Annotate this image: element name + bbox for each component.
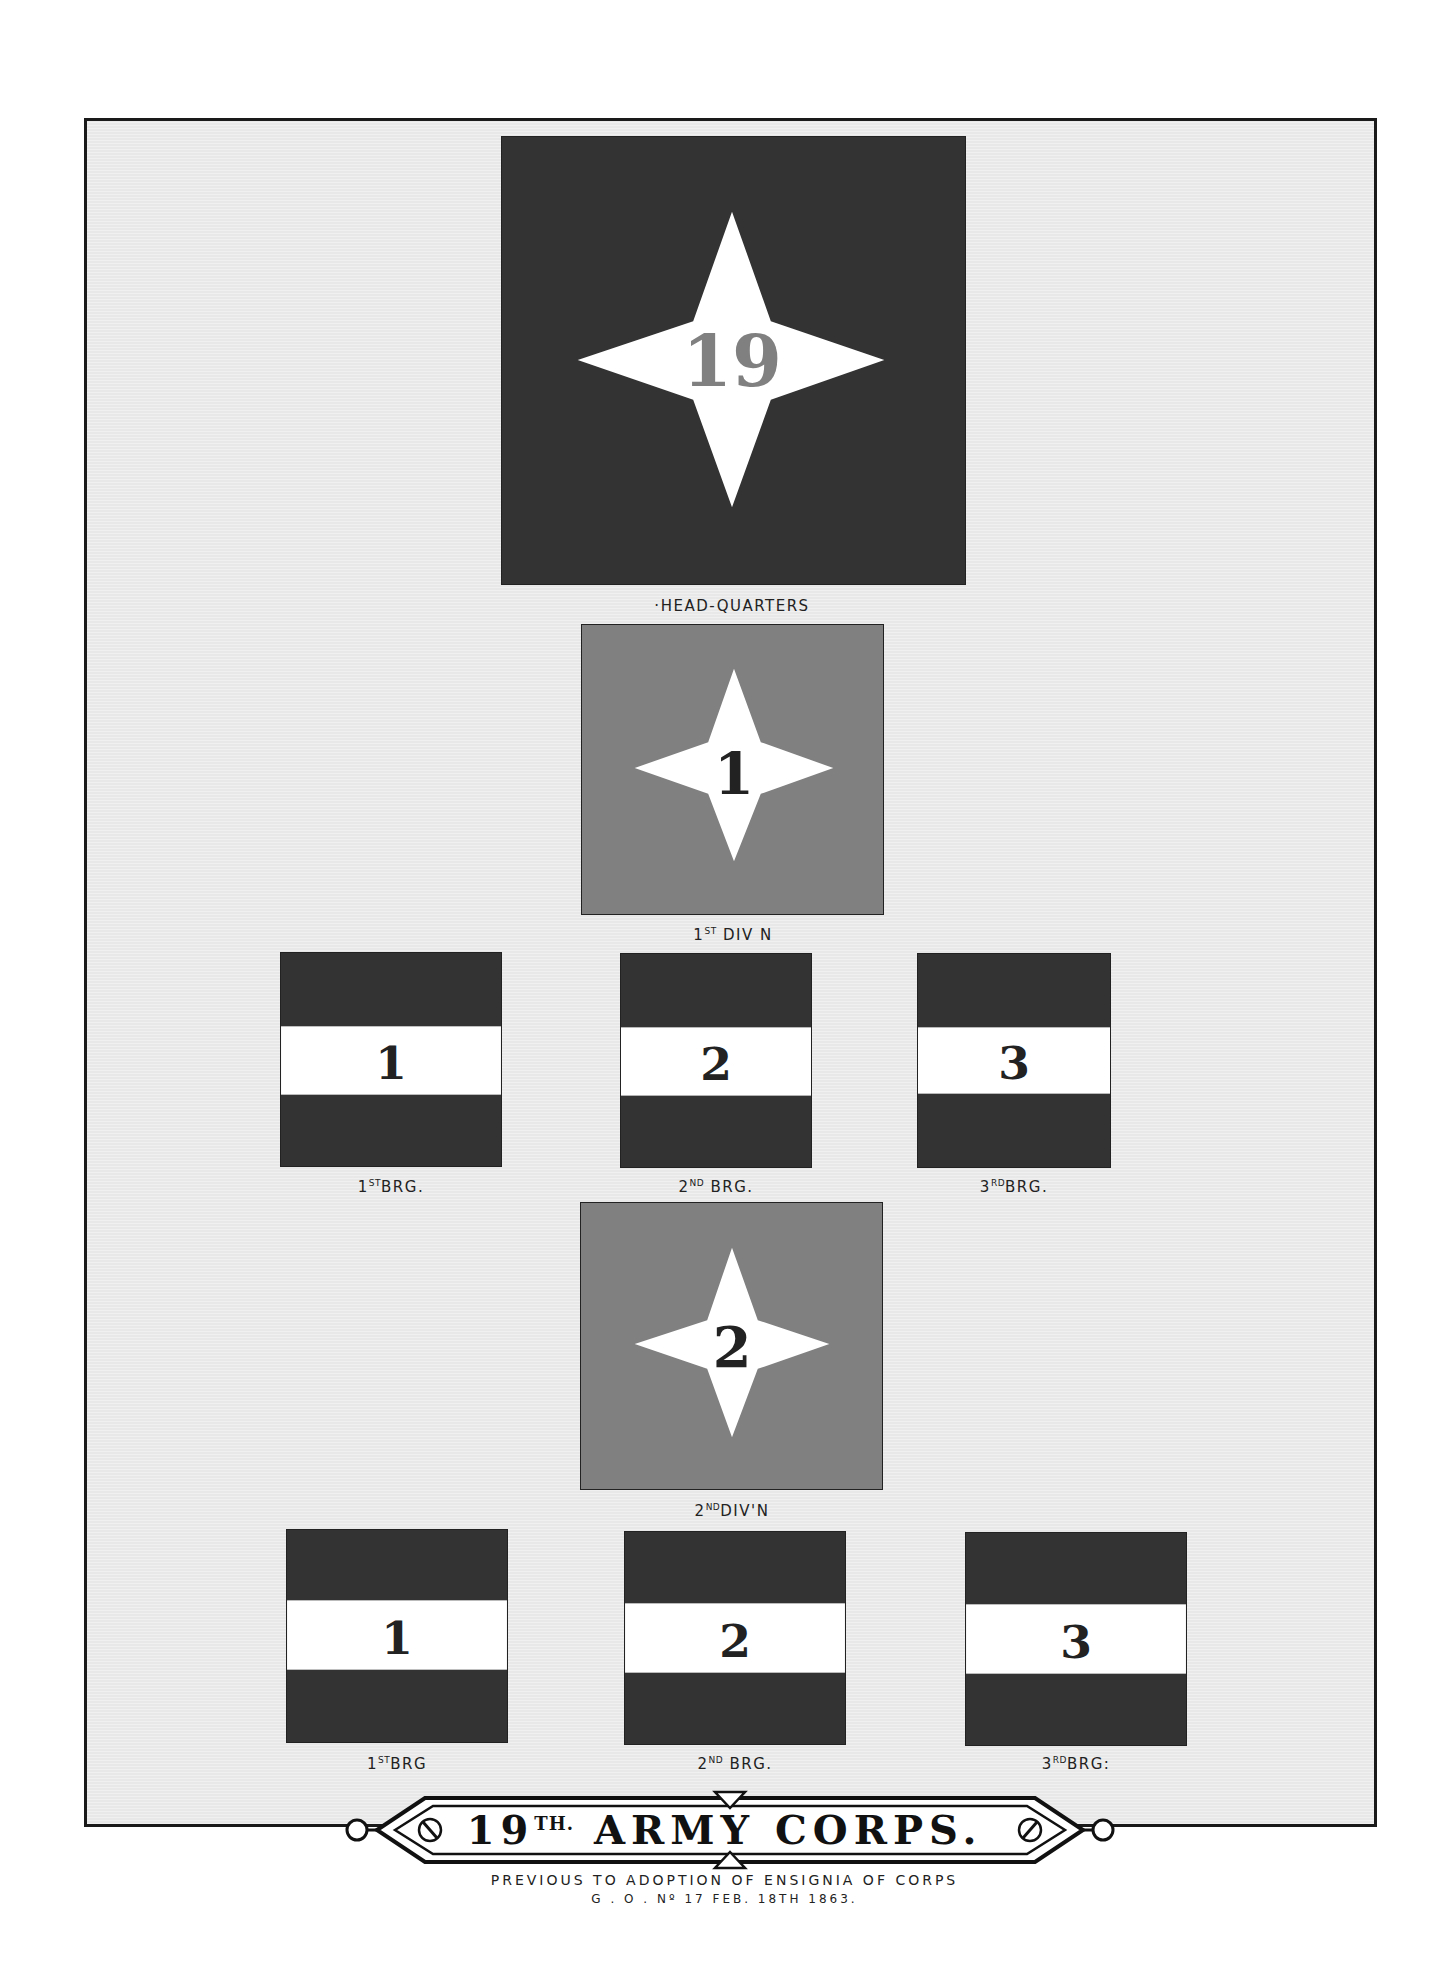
brigade-band: 2 [625, 1532, 845, 1744]
label-headquarters: ·HEAD-QUARTERS [654, 597, 809, 615]
svg-text:2: 2 [713, 1315, 752, 1380]
star-icon: 2 [581, 1203, 882, 1489]
label-div2-brigade-2: 2ND BRG. [697, 1755, 772, 1773]
label-1st-division: 1ST DIV N [693, 926, 772, 944]
flag-1st-division: 1 [581, 624, 884, 915]
label-div1-brigade-2: 2ND BRG. [678, 1178, 753, 1196]
flag-2nd-division: 2 [580, 1202, 883, 1490]
label-div1-brigade-3: 3RDBRG. [980, 1178, 1048, 1196]
svg-text:2: 2 [700, 1037, 732, 1091]
label-div1-brigade-1: 1STBRG. [358, 1178, 424, 1196]
star-icon: 19 [502, 137, 965, 584]
flag-div2-brigade-3: 3 [965, 1532, 1187, 1746]
svg-text:1: 1 [714, 740, 754, 808]
svg-text:1: 1 [381, 1611, 413, 1665]
svg-text:3: 3 [1060, 1615, 1092, 1669]
label-2nd-division: 2NDDIV'N [695, 1502, 770, 1520]
svg-text:1: 1 [375, 1036, 407, 1090]
flag-div2-brigade-2: 2 [624, 1531, 846, 1745]
brigade-band: 1 [281, 953, 501, 1166]
flag-div1-brigade-3: 3 [917, 953, 1111, 1168]
label-div2-brigade-1: 1STBRG [367, 1755, 427, 1773]
subtitle-line-2: G . O . Nº 17 FEB. 18TH 1863. [0, 1892, 1449, 1906]
svg-text:3: 3 [998, 1036, 1030, 1090]
brigade-band: 3 [966, 1533, 1186, 1745]
flag-div1-brigade-1: 1 [280, 952, 502, 1167]
star-icon: 1 [582, 625, 883, 914]
brigade-band: 3 [918, 954, 1110, 1167]
flag-div2-brigade-1: 1 [286, 1529, 508, 1743]
brigade-band: 1 [287, 1530, 507, 1742]
plate-title: 19TH. ARMY CORPS. [0, 1806, 1449, 1853]
flag-div1-brigade-2: 2 [620, 953, 812, 1168]
svg-text:19: 19 [682, 319, 782, 403]
flag-headquarters: 19 [501, 136, 966, 585]
svg-text:2: 2 [719, 1614, 751, 1668]
label-div2-brigade-3: 3RDBRG: [1042, 1755, 1111, 1773]
brigade-band: 2 [621, 954, 811, 1167]
subtitle-line-1: PREVIOUS TO ADOPTION OF ENSIGNIA OF CORP… [0, 1872, 1449, 1888]
